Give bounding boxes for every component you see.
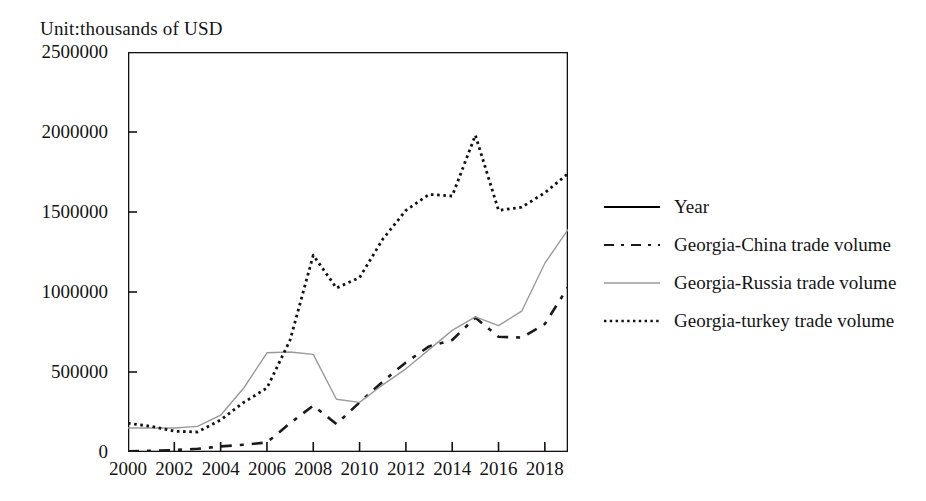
plot-area [128,52,568,452]
dashed-line-swatch [604,238,660,252]
y-tick-label: 1000000 [42,281,109,303]
legend-label-year: Year [674,196,709,218]
legend-label-russia: Georgia-Russia trade volume [674,272,896,294]
solid-line-swatch [604,200,660,214]
plot-frame [129,53,568,452]
y-tick-label: 500000 [51,361,108,383]
series-line-georgia-turkey-trade-volume [128,135,568,432]
x-tick-label: 2018 [526,458,564,480]
y-tick-label: 0 [99,441,109,463]
legend-item: Georgia-turkey trade volume [604,302,924,340]
x-tick-label: 2016 [480,458,518,480]
legend-item: Georgia-Russia trade volume [604,264,924,302]
x-axis-labels: 2000200220042006200820102012201420162018 [128,458,568,488]
chart-page: Unit:thousands of USD 050000010000001500… [0,0,926,501]
x-tick-label: 2006 [248,458,286,480]
x-tick-label: 2012 [387,458,425,480]
line-chart-svg [128,52,568,452]
y-axis-ticks [128,52,137,452]
legend-item: Georgia-China trade volume [604,226,924,264]
chart-unit-title: Unit:thousands of USD [40,18,223,40]
y-tick-label: 2000000 [42,121,109,143]
chart-legend: Year Georgia-China trade volume Georgia-… [604,188,924,340]
y-axis-labels: 05000001000000150000020000002500000 [0,52,120,452]
y-tick-label: 2500000 [42,41,109,63]
y-tick-label: 1500000 [42,201,109,223]
x-tick-label: 2008 [294,458,332,480]
legend-label-turkey: Georgia-turkey trade volume [674,310,894,332]
x-axis-ticks [128,442,545,452]
legend-item: Year [604,188,924,226]
dotted-line-swatch [604,314,660,328]
legend-label-china: Georgia-China trade volume [674,234,891,256]
series-line-georgia-russia-trade-volume [128,230,568,428]
x-tick-label: 2002 [155,458,193,480]
x-tick-label: 2014 [433,458,471,480]
x-tick-label: 2000 [109,458,147,480]
data-series-group [128,135,568,451]
x-tick-label: 2004 [202,458,240,480]
x-tick-label: 2010 [341,458,379,480]
gray-line-swatch [604,276,660,290]
